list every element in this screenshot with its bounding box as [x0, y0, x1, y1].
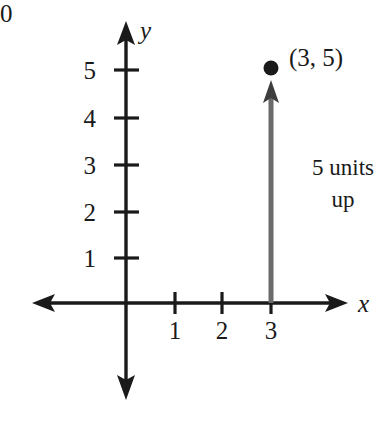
y-tick-label-5: 5 — [66, 58, 96, 83]
y-tick-label-1: 1 — [66, 246, 96, 271]
translation-annotation-line-1: 5 units — [283, 156, 388, 179]
point-coordinate-label: (3, 5) — [289, 45, 343, 70]
x-axis-name-label: x — [358, 291, 369, 316]
coordinate-plane-figure: 5 4 3 2 1 0 1 2 3 y x (3, 5) 5 units up — [0, 0, 388, 425]
x-tick-label-3: 3 — [256, 318, 286, 343]
y-axis-name-label: y — [140, 18, 151, 43]
x-tick-label-2: 2 — [207, 318, 237, 343]
y-tick-label-3: 3 — [66, 153, 96, 178]
x-tick-label-1: 1 — [160, 318, 190, 343]
y-tick-label-4: 4 — [66, 106, 96, 131]
translation-annotation-line-2: up — [283, 188, 388, 211]
plotted-point-3-5 — [264, 61, 279, 76]
y-tick-label-2: 2 — [66, 200, 96, 225]
